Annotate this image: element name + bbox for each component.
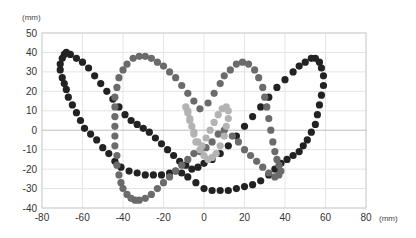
data-point — [142, 53, 149, 60]
data-point — [271, 148, 278, 155]
data-point — [318, 92, 325, 99]
x-tick-label: -60 — [75, 212, 90, 223]
data-point — [115, 171, 122, 178]
data-point — [265, 169, 272, 176]
data-point — [192, 179, 199, 186]
data-point — [227, 66, 234, 73]
data-point — [290, 68, 297, 75]
data-point — [304, 136, 311, 143]
data-point — [217, 187, 224, 194]
data-point — [170, 152, 177, 159]
data-point — [221, 132, 228, 139]
data-point — [273, 84, 280, 91]
data-point — [225, 142, 232, 149]
data-point — [119, 66, 126, 73]
y-tick-label: -20 — [23, 164, 38, 175]
data-point — [259, 164, 266, 171]
data-point — [215, 131, 222, 138]
y-tick-label: -40 — [23, 203, 38, 214]
data-point — [85, 64, 92, 71]
data-point — [111, 113, 118, 120]
data-point — [211, 90, 218, 97]
data-point — [190, 150, 197, 157]
data-point — [225, 187, 232, 194]
data-point — [265, 115, 272, 122]
data-point — [314, 111, 321, 118]
data-point — [160, 179, 167, 186]
data-point — [91, 72, 98, 79]
data-point — [166, 68, 173, 75]
data-point — [211, 119, 218, 126]
data-point — [206, 127, 213, 134]
y-tick-label: -10 — [23, 144, 38, 155]
data-point — [63, 86, 70, 93]
data-point — [221, 72, 228, 79]
data-point — [166, 173, 173, 180]
data-point — [142, 171, 149, 178]
data-point — [142, 195, 149, 202]
data-point — [300, 142, 307, 149]
y-axis-tick-labels: -40-30-20-1001020304050 — [23, 28, 38, 214]
y-tick-label: 30 — [26, 66, 38, 77]
data-point — [235, 138, 242, 145]
data-point — [209, 138, 216, 145]
data-point — [186, 117, 193, 124]
data-point — [249, 113, 256, 120]
data-point — [316, 101, 323, 108]
data-point — [233, 185, 240, 192]
x-axis-unit-label: (mm) — [379, 214, 398, 223]
y-tick-label: 40 — [26, 47, 38, 58]
data-point — [194, 138, 201, 145]
data-point — [229, 132, 236, 139]
data-point — [111, 94, 118, 101]
data-point — [113, 84, 120, 91]
data-point — [77, 117, 84, 124]
data-point — [105, 150, 112, 157]
data-point — [296, 148, 303, 155]
data-point — [140, 125, 147, 132]
data-point — [290, 152, 297, 159]
data-point — [113, 162, 120, 169]
data-point — [196, 105, 203, 112]
data-point — [261, 94, 268, 101]
data-point — [269, 138, 276, 145]
series-light-gray — [182, 103, 232, 163]
data-point — [184, 90, 191, 97]
data-point — [182, 103, 189, 110]
data-point — [111, 103, 118, 110]
data-point — [200, 185, 207, 192]
data-point — [190, 97, 197, 104]
data-point — [188, 166, 195, 173]
y-tick-label: 20 — [26, 86, 38, 97]
y-tick-label: 50 — [26, 28, 38, 39]
data-point — [281, 76, 288, 83]
data-point — [172, 167, 179, 174]
data-point — [202, 134, 209, 141]
data-point — [178, 82, 185, 89]
data-point — [160, 62, 167, 69]
data-point — [213, 150, 220, 157]
data-point — [111, 132, 118, 139]
y-tick-label: 10 — [26, 105, 38, 116]
x-axis-tick-labels: -80-60-40-20020406080 — [35, 212, 372, 223]
data-point — [241, 123, 248, 130]
data-point — [117, 179, 124, 186]
data-point — [158, 171, 165, 178]
data-point — [320, 72, 327, 79]
data-point — [123, 191, 130, 198]
data-point — [215, 111, 222, 118]
data-point — [113, 152, 120, 159]
data-point — [257, 177, 264, 184]
data-point — [123, 61, 130, 68]
data-point — [148, 55, 155, 62]
data-point — [148, 191, 155, 198]
data-point — [249, 181, 256, 188]
data-point — [219, 105, 226, 112]
data-point — [184, 173, 191, 180]
y-axis-unit-label: (mm) — [22, 13, 41, 22]
data-point — [164, 146, 171, 153]
data-point — [121, 111, 128, 118]
data-point — [233, 61, 240, 68]
data-point — [225, 115, 232, 122]
data-point — [184, 156, 191, 163]
